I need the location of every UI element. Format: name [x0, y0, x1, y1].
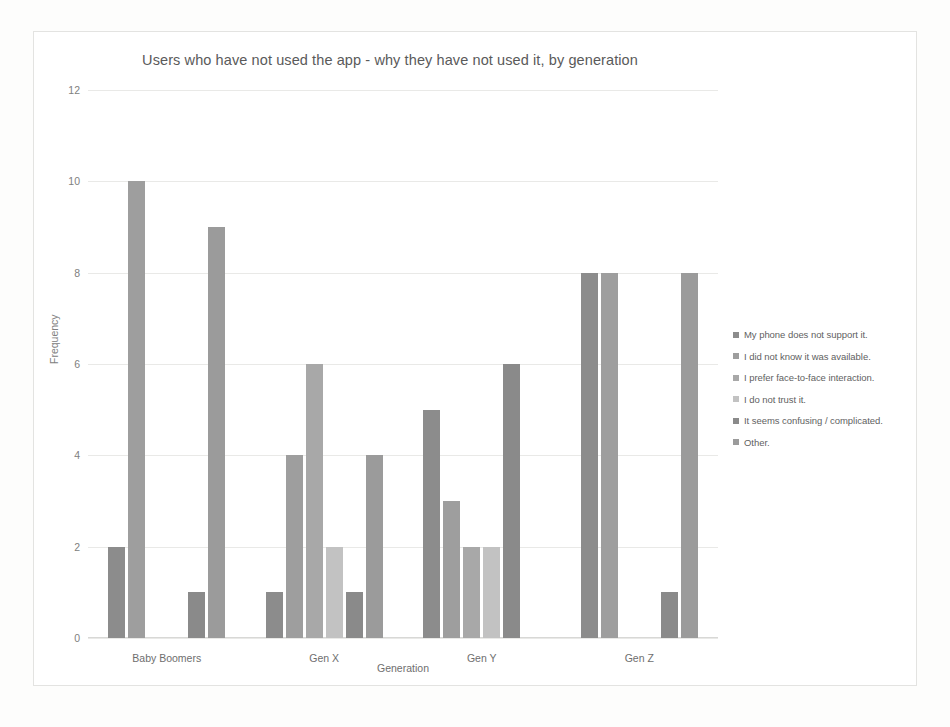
- bar-slot: [208, 90, 225, 638]
- bar[interactable]: [208, 227, 225, 638]
- legend-item[interactable]: Other.: [733, 432, 933, 454]
- bar[interactable]: [581, 273, 598, 638]
- bar-slot: [621, 90, 638, 638]
- bar[interactable]: [681, 273, 698, 638]
- bar-slot: [168, 90, 185, 638]
- bar[interactable]: [661, 592, 678, 638]
- legend-item-label: My phone does not support it.: [744, 329, 868, 340]
- y-axis-tick-label: 10: [40, 175, 80, 187]
- bar-group: Gen Z: [561, 90, 719, 638]
- bar[interactable]: [366, 455, 383, 638]
- bar[interactable]: [128, 181, 145, 638]
- legend-item-label: I prefer face-to-face interaction.: [744, 372, 874, 383]
- bar-slot: [601, 90, 618, 638]
- bar-groups: Baby BoomersGen XGen YGen Z: [88, 90, 718, 638]
- bar-group: Gen Y: [403, 90, 561, 638]
- bar[interactable]: [601, 273, 618, 638]
- bar-slot: [326, 90, 343, 638]
- legend-swatch-icon: [733, 396, 739, 402]
- legend-swatch-icon: [733, 439, 739, 445]
- bar-slot: [346, 90, 363, 638]
- bar-slot: [523, 90, 540, 638]
- y-axis-tick-label: 12: [40, 84, 80, 96]
- legend-item[interactable]: I did not know it was available.: [733, 346, 933, 368]
- bar[interactable]: [483, 547, 500, 638]
- y-axis-tick-label: 6: [40, 358, 80, 370]
- bar[interactable]: [503, 364, 520, 638]
- legend-swatch-icon: [733, 353, 739, 359]
- bar-slot: [581, 90, 598, 638]
- chart-title: Users who have not used the app - why th…: [60, 52, 720, 68]
- legend-item-label: Other.: [744, 437, 770, 448]
- bar[interactable]: [306, 364, 323, 638]
- bar[interactable]: [443, 501, 460, 638]
- bar[interactable]: [286, 455, 303, 638]
- bar[interactable]: [266, 592, 283, 638]
- legend-item[interactable]: It seems confusing / complicated.: [733, 410, 933, 432]
- legend-item[interactable]: My phone does not support it.: [733, 324, 933, 346]
- bar-slot: [483, 90, 500, 638]
- bar-slot: [661, 90, 678, 638]
- bar-slot: [188, 90, 205, 638]
- bar-slot: [306, 90, 323, 638]
- legend-item[interactable]: I prefer face-to-face interaction.: [733, 367, 933, 389]
- bar[interactable]: [188, 592, 205, 638]
- y-axis-title: Frequency: [48, 314, 60, 364]
- y-axis-tick-label: 2: [40, 541, 80, 553]
- bar[interactable]: [346, 592, 363, 638]
- bar-slot: [148, 90, 165, 638]
- legend-item-label: I did not know it was available.: [744, 351, 871, 362]
- y-axis-tick-label: 4: [40, 449, 80, 461]
- bar-slot: [266, 90, 283, 638]
- bar[interactable]: [326, 547, 343, 638]
- bar-slot: [503, 90, 520, 638]
- x-axis-title: Generation: [88, 662, 718, 674]
- bar-slot: [286, 90, 303, 638]
- chart-legend: My phone does not support it.I did not k…: [733, 324, 933, 453]
- bar-slot: [108, 90, 125, 638]
- legend-swatch-icon: [733, 332, 739, 338]
- gridline: [88, 638, 718, 639]
- bar[interactable]: [108, 547, 125, 638]
- bar[interactable]: [423, 410, 440, 638]
- bar-slot: [423, 90, 440, 638]
- legend-item-label: It seems confusing / complicated.: [744, 415, 883, 426]
- y-axis-tick-label: 0: [40, 632, 80, 644]
- plot-area: Baby BoomersGen XGen YGen Z 121086420: [88, 90, 718, 638]
- legend-swatch-icon: [733, 418, 739, 424]
- bar-slot: [641, 90, 658, 638]
- bar-group: Gen X: [246, 90, 404, 638]
- bar-slot: [443, 90, 460, 638]
- bar-group: Baby Boomers: [88, 90, 246, 638]
- bar[interactable]: [463, 547, 480, 638]
- bar-slot: [681, 90, 698, 638]
- legend-item-label: I do not trust it.: [744, 394, 806, 405]
- y-axis-tick-label: 8: [40, 267, 80, 279]
- bar-slot: [463, 90, 480, 638]
- legend-swatch-icon: [733, 375, 739, 381]
- page-background: Users who have not used the app - why th…: [0, 0, 950, 727]
- legend-item[interactable]: I do not trust it.: [733, 389, 933, 411]
- bar-slot: [128, 90, 145, 638]
- bar-slot: [366, 90, 383, 638]
